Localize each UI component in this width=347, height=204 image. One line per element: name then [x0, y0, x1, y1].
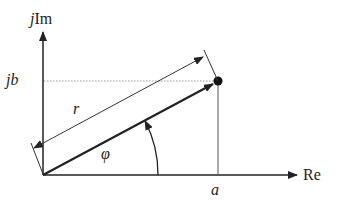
jb-label: jb [6, 72, 18, 88]
angle-arc [145, 121, 158, 175]
magnitude-tick-start [31, 143, 43, 174]
magnitude-label: r [73, 101, 79, 117]
diagram-graphics [0, 0, 347, 204]
angle-label: φ [101, 146, 110, 162]
complex-plane-diagram: jIm jb r φ a Re [0, 0, 347, 204]
real-axis-label: Re [303, 167, 321, 183]
imaginary-axis-label: jIm [30, 11, 52, 27]
real-value-label: a [211, 182, 219, 198]
magnitude-tick-end [204, 50, 218, 81]
im-label: Im [34, 10, 52, 27]
